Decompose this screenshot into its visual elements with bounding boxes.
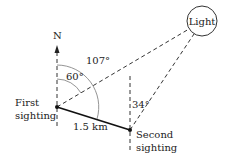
north-label: N [53,30,62,41]
distance-label: 1.5 km [73,121,108,132]
second-sighting-point [128,128,132,132]
angle-107-label: 107° [86,55,110,66]
sightline-second [130,34,194,130]
light-label: Light [189,16,216,27]
north-arrow-icon [55,45,60,53]
second-sighting-label-line1: Second [136,129,174,140]
angle-34-label: 34° [132,99,150,110]
sightline-first [57,29,189,107]
first-sighting-label-line1: First [15,97,39,108]
first-sighting-point [55,105,59,109]
bearing-diagram: N 60° 107° 34° Light First sighting Seco… [0,0,228,159]
angle-60-label: 60° [66,71,84,82]
second-sighting-label-line2: sighting [136,142,178,153]
first-sighting-label-line2: sighting [15,110,57,121]
